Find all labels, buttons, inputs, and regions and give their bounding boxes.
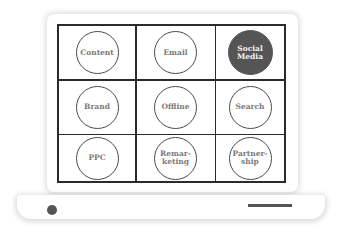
laptop-base (17, 195, 325, 219)
grid-cell-partnership: Partner- ship (216, 135, 284, 181)
grid-cell-search: Search (216, 81, 284, 134)
drive-slot-icon (248, 204, 292, 207)
grid-cell-social-media: Social Media (216, 26, 284, 79)
channel-circle-brand: Brand (76, 86, 119, 129)
grid-cell-remarketing: Remar- keting (137, 135, 215, 181)
grid-cell-brand: Brand (59, 81, 135, 134)
power-light-icon (47, 205, 57, 215)
grid-cell-content: Content (59, 26, 135, 79)
grid-cell-offline: Offline (137, 81, 215, 134)
channel-circle-remarketing: Remar- keting (154, 137, 197, 180)
channel-circle-email: Email (154, 31, 197, 74)
channel-circle-search: Search (229, 86, 272, 129)
channel-circle-social-media: Social Media (228, 30, 273, 75)
channel-circle-partnership: Partner- ship (229, 137, 272, 180)
channel-circle-offline: Offline (154, 86, 197, 129)
grid-cell-ppc: PPC (59, 135, 135, 181)
channel-grid: Content Email Social Media Brand Offline… (57, 24, 286, 183)
channel-circle-content: Content (76, 31, 119, 74)
channel-circle-ppc: PPC (76, 137, 119, 180)
grid-cell-email: Email (137, 26, 215, 79)
